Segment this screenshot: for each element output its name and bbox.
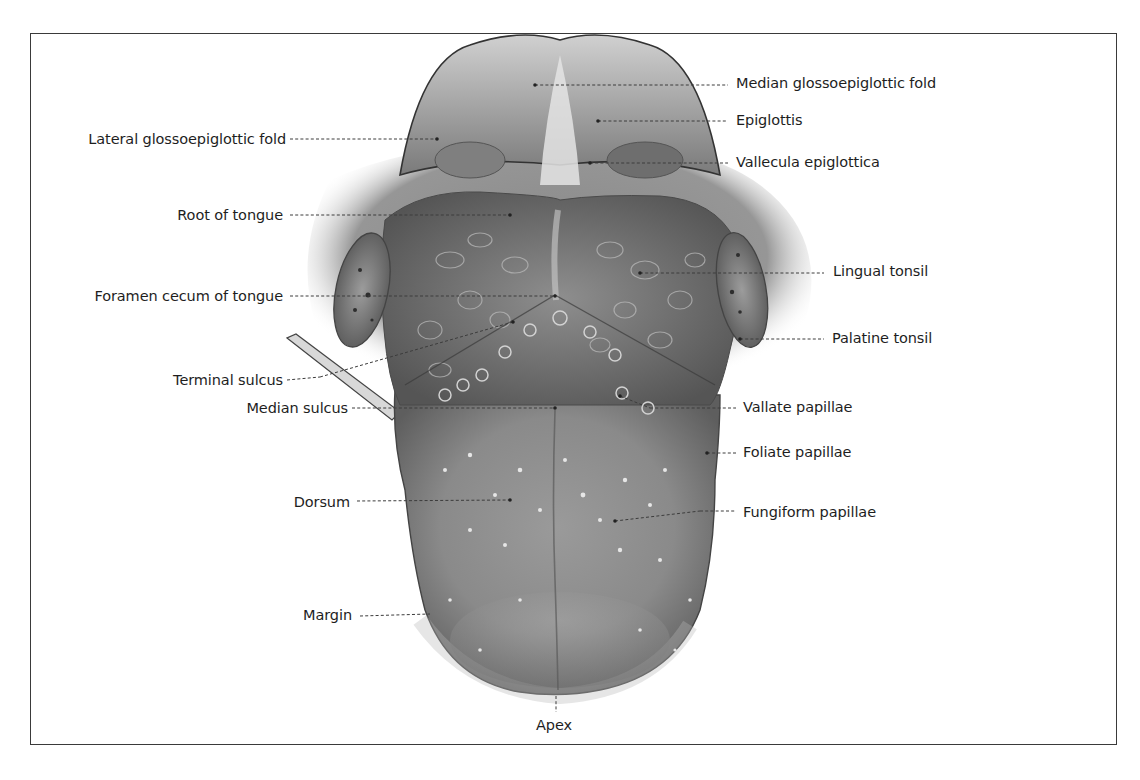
label-epiglottis: Epiglottis: [736, 111, 802, 129]
label-lateral-glossoepiglottic-fold: Lateral glossoepiglottic fold: [88, 130, 286, 148]
epiglottis: [400, 35, 720, 185]
label-margin: Margin: [303, 606, 352, 624]
tongue-body: [394, 390, 720, 696]
label-fungiform-papillae: Fungiform papillae: [743, 503, 876, 521]
label-apex: Apex: [536, 716, 572, 734]
label-root-of-tongue: Root of tongue: [177, 206, 283, 224]
label-vallecula-epiglottica: Vallecula epiglottica: [736, 153, 880, 171]
label-median-sulcus: Median sulcus: [246, 399, 348, 417]
label-foramen-cecum: Foramen cecum of tongue: [94, 287, 283, 305]
root-of-tongue-region: [381, 192, 739, 414]
label-lingual-tonsil: Lingual tonsil: [833, 262, 928, 280]
label-palatine-tonsil: Palatine tonsil: [832, 329, 932, 347]
label-median-glossoepiglottic-fold: Median glossoepiglottic fold: [736, 74, 936, 92]
tongue-illustration: [0, 0, 1140, 780]
label-foliate-papillae: Foliate papillae: [743, 443, 851, 461]
label-dorsum: Dorsum: [294, 493, 350, 511]
label-terminal-sulcus: Terminal sulcus: [173, 371, 283, 389]
label-vallate-papillae: Vallate papillae: [743, 398, 852, 416]
